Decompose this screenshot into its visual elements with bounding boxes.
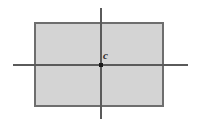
center-point-dot: [99, 63, 103, 67]
center-point-label: c: [103, 50, 108, 61]
figure-canvas: c: [0, 0, 199, 125]
geometry-figure-svg: [0, 0, 199, 125]
